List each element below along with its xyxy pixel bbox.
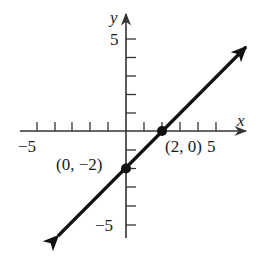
graph-line [58, 47, 246, 236]
x-axis-label: x [236, 111, 245, 130]
point-y-intercept [121, 164, 131, 174]
y-tick-label-neg5: −5 [95, 216, 113, 235]
x-tick-label-neg5: −5 [18, 137, 36, 156]
y-tick-label-5: 5 [110, 30, 119, 49]
y-axis-label: y [108, 8, 118, 27]
annotation-x-intercept: (2, 0) [165, 137, 202, 156]
coordinate-plane: y x 5 −5 −5 5 (0, −2) (2, 0) [0, 0, 264, 260]
annotation-y-intercept: (0, −2) [56, 155, 102, 174]
y-axis-ticks [126, 39, 136, 225]
point-x-intercept [157, 126, 167, 136]
x-tick-label-5: 5 [207, 137, 216, 156]
